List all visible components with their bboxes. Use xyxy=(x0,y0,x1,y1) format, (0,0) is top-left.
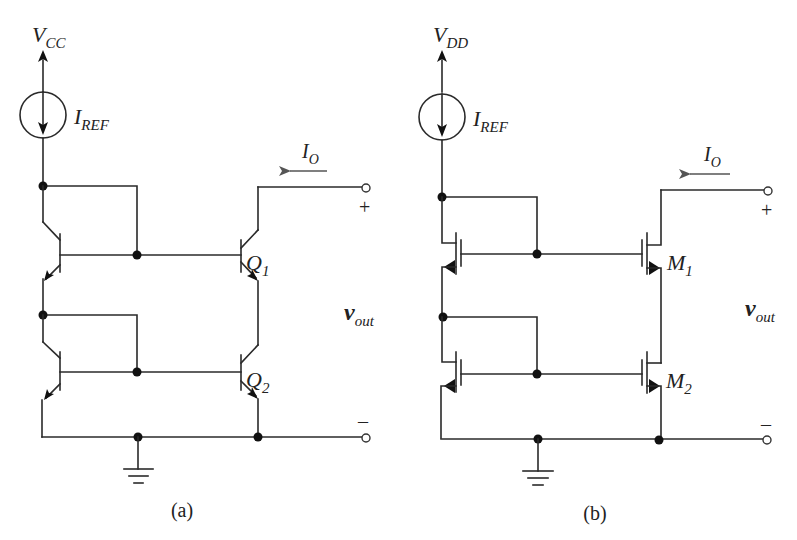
output-terminal-plus xyxy=(362,184,370,192)
node-dot xyxy=(439,313,448,322)
output-terminal-plus xyxy=(764,187,772,195)
node-dot xyxy=(133,251,142,260)
node-dot xyxy=(655,436,664,445)
bjt-left-upper-icon xyxy=(43,186,60,315)
nmos-m2-icon xyxy=(642,352,661,440)
vout-label: vout xyxy=(344,299,375,329)
nmos-m1-icon xyxy=(642,190,661,363)
vcc-supply-arrow xyxy=(38,50,48,92)
node-dot xyxy=(254,433,263,442)
schematic-canvas: VCC IREF xyxy=(0,0,797,540)
io-label: IO xyxy=(301,140,319,167)
ground-icon xyxy=(124,437,153,483)
q1-label: Q1 xyxy=(246,250,269,279)
minus-sign: – xyxy=(357,410,369,432)
output-terminal-minus xyxy=(763,436,771,444)
nmos-left-lower-icon xyxy=(441,317,461,438)
panel-b: VDD IREF xyxy=(419,22,776,525)
panel-a: VCC IREF xyxy=(20,22,375,522)
iref-current-source-icon xyxy=(20,92,66,138)
iref-label: IREF xyxy=(73,104,110,133)
plus-sign: + xyxy=(761,199,772,221)
node-dot xyxy=(533,250,542,259)
iref-label: IREF xyxy=(472,106,509,135)
output-terminal-minus xyxy=(362,434,370,442)
iref-current-source-icon xyxy=(419,94,465,140)
m2-label: M2 xyxy=(665,368,692,397)
caption-b: (b) xyxy=(583,502,606,525)
node-dot xyxy=(533,370,542,379)
bjt-left-lower-icon xyxy=(42,315,60,437)
nmos-left-upper-icon xyxy=(442,197,461,317)
q2-label: Q2 xyxy=(246,367,270,396)
caption-a: (a) xyxy=(171,499,193,522)
m1-label: M1 xyxy=(666,250,693,279)
plus-sign: + xyxy=(359,196,370,218)
ground-icon xyxy=(523,439,553,485)
minus-sign: – xyxy=(760,413,772,435)
io-label: IO xyxy=(703,143,721,170)
vdd-supply-arrow xyxy=(437,50,447,92)
vout-label: vout xyxy=(745,295,776,325)
vdd-label: VDD xyxy=(433,22,468,51)
vcc-label: VCC xyxy=(32,22,66,51)
node-dot xyxy=(133,368,142,377)
